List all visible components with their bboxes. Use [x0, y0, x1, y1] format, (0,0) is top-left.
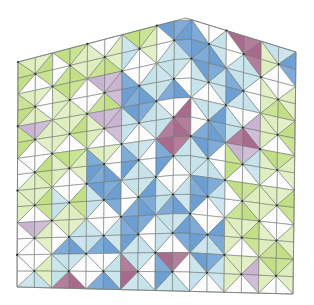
vertex-dot: [277, 63, 279, 65]
vertex-dot: [138, 122, 140, 124]
vertex-dot: [137, 270, 139, 272]
vertex-dot: [16, 254, 18, 256]
vertex-dot: [69, 64, 71, 66]
vertex-dot: [68, 270, 70, 272]
vertex-dot: [242, 90, 244, 92]
tiling-illustration: [0, 0, 314, 305]
vertex-dot: [155, 176, 157, 178]
vertex-dot: [154, 252, 156, 254]
vertex-dot: [171, 271, 173, 273]
vertex-dot: [207, 119, 209, 121]
vertex-dot: [172, 155, 174, 157]
vertex-dot: [225, 104, 227, 106]
vertex-dot: [121, 70, 123, 72]
vertex-dot: [242, 127, 244, 129]
vertex-dot: [225, 29, 227, 31]
vertex-dot: [120, 143, 122, 145]
tile-grid: [17, 20, 296, 294]
vertex-dot: [172, 232, 174, 234]
vertex-dot: [276, 169, 278, 171]
vertex-dot: [137, 233, 139, 235]
vertex-dot: [190, 58, 192, 60]
vertex-dot: [206, 272, 208, 274]
vertex-dot: [86, 43, 88, 45]
vertex-dot: [276, 204, 278, 206]
vertex-dot: [240, 273, 242, 275]
vertex-dot: [189, 213, 191, 215]
vertex-dot: [241, 200, 243, 202]
tessellated-block-figure: [0, 0, 314, 305]
vertex-dot: [103, 163, 105, 165]
vertex-dot: [34, 171, 36, 173]
vertex-dot: [223, 254, 225, 256]
vertex-dot: [242, 163, 244, 165]
vertex-dot: [207, 157, 209, 159]
vertex-dot: [34, 204, 36, 206]
vertex-dot: [103, 92, 105, 94]
vertex-dot: [120, 216, 122, 218]
vertex-dot: [208, 43, 210, 45]
vertex-dot: [208, 81, 210, 83]
vertex-dot: [173, 78, 175, 80]
vertex-dot: [206, 234, 208, 236]
vertex-dot: [102, 270, 104, 272]
vertex-dot: [173, 39, 175, 41]
vertex-dot: [34, 73, 36, 75]
vertex-dot: [51, 220, 53, 222]
vertex-dot: [259, 148, 261, 150]
vertex-dot: [104, 56, 106, 58]
vertex-dot: [68, 202, 70, 204]
vertex-dot: [16, 190, 18, 192]
vertex-dot: [172, 193, 174, 195]
vertex-dot: [86, 113, 88, 115]
vertex-dot: [103, 235, 105, 237]
vertex-dot: [69, 99, 71, 101]
vertex-dot: [138, 85, 140, 87]
vertex-dot: [68, 236, 70, 238]
vertex-dot: [33, 237, 35, 239]
vertex-dot: [33, 270, 35, 272]
vertex-dot: [137, 196, 139, 198]
vertex-dot: [277, 98, 279, 100]
vertex-dot: [277, 134, 279, 136]
vertex-dot: [275, 275, 277, 277]
vertex-dot: [34, 139, 36, 141]
vertex-dot: [275, 240, 277, 242]
vertex-dot: [138, 48, 140, 50]
vertex-dot: [34, 106, 36, 108]
vertex-dot: [85, 253, 87, 255]
vertex-dot: [103, 127, 105, 129]
vertex-dot: [258, 220, 260, 222]
vertex-dot: [241, 237, 243, 239]
vertex-dot: [190, 135, 192, 137]
vertex-dot: [243, 53, 245, 55]
vertex-dot: [224, 179, 226, 181]
vertex-dot: [86, 183, 88, 185]
vertex-dot: [156, 25, 158, 27]
vertex-dot: [69, 133, 71, 135]
vertex-dot: [68, 167, 70, 169]
vertex-dot: [17, 125, 19, 127]
vertex-dot: [138, 159, 140, 161]
vertex-dot: [207, 196, 209, 198]
vertex-dot: [51, 153, 53, 155]
vertex-dot: [173, 116, 175, 118]
vertex-dot: [155, 100, 157, 102]
vertex-dot: [103, 199, 105, 201]
vertex-dot: [52, 85, 54, 87]
vertex-dot: [260, 76, 262, 78]
vertex-dot: [17, 61, 19, 63]
